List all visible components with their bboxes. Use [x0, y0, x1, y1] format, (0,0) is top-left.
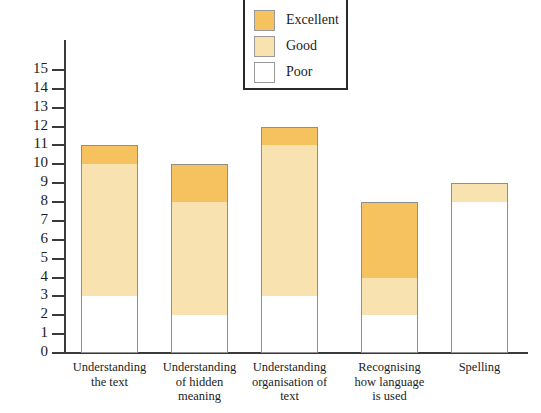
y-axis-tick-mark [52, 220, 65, 222]
y-axis-tick-mark [52, 314, 65, 316]
bar-segment-good [361, 278, 418, 316]
category-label-line: text [234, 389, 346, 404]
bar-segment-good [171, 202, 228, 315]
y-axis-tick-mark [52, 333, 65, 335]
bar-segment-good [451, 183, 508, 202]
stacked-bar-chart: 1514131211109876543210 Understandingthe … [0, 0, 541, 413]
bar-segment-excellent [81, 145, 138, 164]
y-axis-tick-mark [52, 144, 65, 146]
plot-area: 1514131211109876543210 Understandingthe … [0, 0, 541, 413]
bar-column [81, 145, 138, 353]
y-axis-tick-mark [52, 201, 65, 203]
y-axis-tick-label: 4 [12, 269, 48, 284]
category-label-line: how language [334, 375, 446, 390]
category-label-line: organisation of [234, 375, 346, 390]
y-axis-tick-label: 8 [12, 193, 48, 208]
y-axis-tick-mark [52, 239, 65, 241]
bar-column [361, 202, 418, 353]
bar-segment-poor [81, 296, 138, 353]
legend-label: Poor [286, 65, 312, 79]
bar-column [451, 183, 508, 353]
bar-segment-poor [261, 296, 318, 353]
y-axis-tick-label: 9 [12, 174, 48, 189]
x-axis-category-label: Spelling [424, 360, 536, 375]
y-axis-tick-label: 15 [12, 61, 48, 76]
legend-label: Good [286, 39, 317, 53]
bar-segment-poor [451, 202, 508, 353]
y-axis-tick-label: 5 [12, 250, 48, 265]
y-axis-tick-label: 14 [12, 80, 48, 95]
y-axis-tick-label: 13 [12, 99, 48, 114]
y-axis-tick-label: 10 [12, 155, 48, 170]
category-label-line: is used [334, 389, 446, 404]
chart-legend: ExcellentGoodPoor [243, 0, 348, 90]
bar-segment-excellent [171, 164, 228, 202]
bar-segment-poor [171, 315, 228, 353]
y-axis-tick-label: 0 [12, 344, 48, 359]
y-axis-tick-label: 11 [12, 136, 48, 151]
legend-item: Excellent [254, 7, 346, 33]
category-label-line: Spelling [424, 360, 536, 375]
legend-label: Excellent [286, 13, 339, 27]
category-label-line: Understanding [234, 360, 346, 375]
y-axis-tick-mark [52, 352, 65, 354]
y-axis-tick-label: 6 [12, 231, 48, 246]
y-axis-tick-mark [52, 107, 65, 109]
y-axis-tick-mark [52, 69, 65, 71]
bar-segment-good [81, 164, 138, 296]
y-axis-tick-mark [52, 295, 65, 297]
bar-segment-good [261, 145, 318, 296]
bar-segment-poor [361, 315, 418, 353]
y-axis-tick-mark [52, 182, 65, 184]
bar-column [261, 127, 318, 353]
legend-item: Good [254, 33, 346, 59]
legend-swatch-excellent [254, 10, 275, 31]
bar-segment-excellent [361, 202, 418, 277]
y-axis-tick-mark [52, 277, 65, 279]
y-axis-tick-mark [52, 258, 65, 260]
y-axis-tick-label: 1 [12, 325, 48, 340]
y-axis-tick-mark [52, 126, 65, 128]
y-axis-tick-label: 3 [12, 287, 48, 302]
y-axis-tick-mark [52, 88, 65, 90]
y-axis-tick-mark [52, 163, 65, 165]
y-axis-tick-label: 2 [12, 306, 48, 321]
legend-swatch-poor [254, 62, 275, 83]
bar-column [171, 164, 228, 353]
legend-swatch-good [254, 36, 275, 57]
y-axis-tick-label: 12 [12, 118, 48, 133]
x-axis-category-label: Understandingorganisation oftext [234, 360, 346, 404]
legend-item: Poor [254, 59, 346, 85]
y-axis-tick-label: 7 [12, 212, 48, 227]
bar-segment-excellent [261, 127, 318, 146]
